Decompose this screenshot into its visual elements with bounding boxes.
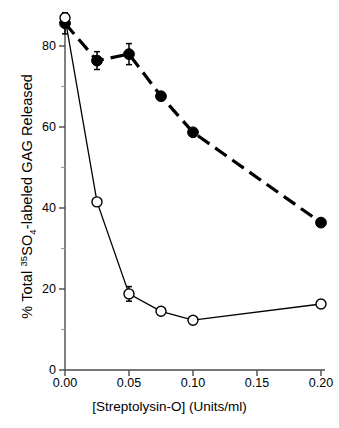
- data-point-open-circle: [188, 315, 198, 325]
- data-point-filled-circle: [156, 91, 167, 102]
- data-series-layer: [60, 13, 327, 326]
- data-point-filled-circle: [92, 55, 103, 66]
- series-line-open-circles: [65, 18, 321, 321]
- chart-figure: % Total 35SO4-labeled GAG Released [Stre…: [0, 0, 339, 428]
- plot-area: [0, 0, 339, 428]
- data-point-open-circle: [316, 299, 326, 309]
- data-point-filled-circle: [124, 49, 135, 60]
- data-point-open-circle: [60, 13, 70, 23]
- data-point-filled-circle: [188, 127, 199, 138]
- data-point-filled-circle: [316, 217, 327, 228]
- data-point-open-circle: [156, 306, 166, 316]
- data-point-open-circle: [92, 197, 102, 207]
- series-line-filled-circles: [65, 23, 321, 222]
- axis-ticks: [59, 46, 321, 376]
- data-point-open-circle: [124, 289, 134, 299]
